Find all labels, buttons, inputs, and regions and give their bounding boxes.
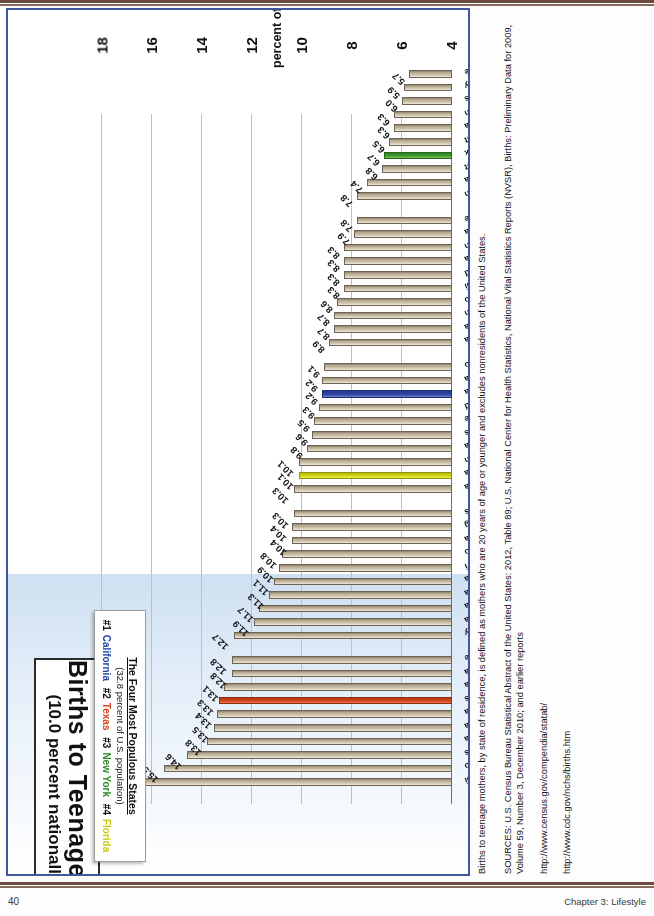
bar-florida: [300, 472, 453, 480]
axis-tick-6: 6: [394, 37, 411, 55]
bar-vermont: [390, 138, 453, 146]
category-label-maine: Maine: [463, 207, 470, 225]
bar-delaware: [315, 417, 453, 425]
chart-title-line2: (10.0 percent nationally in 2009): [44, 695, 63, 877]
definition-note: Births to teenage mothers, by state of r…: [476, 8, 489, 874]
legend-state-new-york: New York: [101, 752, 112, 797]
axis-tick-8: 8: [344, 37, 361, 55]
bar-kansas: [295, 510, 453, 518]
bar-iowa: [335, 325, 453, 333]
value-label-utah: 6.3: [375, 111, 392, 128]
bar-new-jersey: [405, 84, 453, 92]
bar-maryland: [345, 271, 453, 279]
bar-montana: [295, 485, 453, 493]
category-label-iowa: Iowa: [463, 317, 470, 333]
legend-state-california: California: [101, 635, 112, 681]
chapter-label: Chapter 3: Lifestyle: [564, 896, 646, 907]
category-label-tennessee: Tennessee: [463, 640, 470, 664]
chart-title-line1: Births to Teenage Mothers: [64, 660, 90, 876]
bar-georgia: [260, 605, 453, 613]
bar-wyoming: [292, 523, 452, 531]
bar-tennessee: [232, 656, 452, 664]
legend-rank-3: #3: [101, 737, 112, 748]
bar-south-carolina: [232, 670, 452, 678]
bar-rhode-island: [320, 404, 453, 412]
source-url-cdc[interactable]: http://www.cdc.gov/nchs/births.htm: [561, 8, 574, 874]
bar-idaho: [337, 298, 452, 306]
legend-items: #1California #2Texas #3New York #4Florid…: [101, 618, 112, 855]
bar-north-carolina: [270, 591, 453, 599]
bar-louisiana: [225, 683, 453, 691]
bar-oregon: [335, 312, 453, 320]
top-rule-accent: [0, 4, 654, 6]
bar-north-dakota: [367, 179, 452, 187]
bar-minnesota: [395, 124, 453, 132]
bar-kentucky: [235, 632, 453, 640]
sources-column: Births to teenage mothers, by state of r…: [476, 8, 646, 876]
chart-panel: 16.5Mississippi15.5New Mexico14.6Arkansa…: [6, 8, 470, 876]
bar-nebraska: [345, 257, 453, 265]
page-canvas: 16.5Mississippi15.5New Mexico14.6Arkansa…: [0, 0, 654, 916]
category-label-kansas: Kansas: [463, 498, 470, 518]
bar-michigan: [300, 458, 453, 466]
category-label-utah: Utah: [463, 103, 470, 119]
category-label-new-hampshire: New Hampshire: [463, 47, 470, 78]
bar-washington: [357, 192, 452, 200]
bar-arizona: [255, 618, 453, 626]
legend-state-texas: Texas: [101, 703, 112, 731]
axis-tick-4: 4: [444, 37, 461, 55]
axis-tick-16: 16: [144, 37, 161, 55]
bar-hawaii: [345, 285, 453, 293]
bar-illinois: [312, 431, 452, 439]
bottom-rule-accent: [0, 886, 654, 888]
bar-south-dakota: [322, 377, 452, 385]
bar-pennsylvania: [330, 339, 453, 347]
bar-alabama: [217, 710, 452, 718]
value-label-kentucky: 12.7: [210, 632, 231, 653]
bar-new-mexico: [165, 765, 453, 773]
axis-tick-14: 14: [194, 37, 211, 55]
page-number: 40: [8, 896, 19, 907]
bar-maine: [357, 217, 452, 225]
value-label-wisconsin: 8.3: [325, 244, 342, 261]
bar-mississippi: [140, 778, 453, 786]
bar-california: [322, 390, 452, 398]
bar-arkansas: [187, 751, 452, 759]
bar-massachusetts: [402, 97, 452, 105]
chart-title-box: Births to Teenage Mothers (10.0 percent …: [34, 658, 100, 876]
legend-rank-1: #1: [101, 620, 112, 631]
bar-new-york: [385, 152, 453, 160]
category-label-colorado: Colorado: [463, 349, 470, 371]
bar-virginia: [355, 230, 453, 238]
value-label-south-dakota: 9.2: [303, 377, 320, 394]
bar-oklahoma: [207, 738, 452, 746]
bar-connecticut: [382, 165, 452, 173]
value-label-colorado: 9.1: [305, 364, 322, 381]
bar-wisconsin: [345, 244, 453, 252]
bar-colorado: [325, 363, 453, 371]
axis-tick-18: 18: [94, 37, 111, 55]
legend-heading: The Four Most Populous States: [127, 657, 139, 815]
axis-tick-10: 10: [294, 37, 311, 55]
bar-utah: [395, 111, 453, 119]
legend-state-florida: Florida: [101, 819, 112, 852]
source-url-census[interactable]: http://www.census.gov/compendia/statab/: [538, 8, 551, 874]
bar-indiana: [275, 578, 453, 586]
axis-tick-12: 12: [244, 37, 261, 55]
legend-box: The Four Most Populous States (32.8 perc…: [94, 610, 146, 862]
legend-subheading: (32.8 percent of U.S. population): [115, 667, 126, 804]
bar-alaska: [307, 445, 452, 453]
bottom-rule: [0, 882, 654, 885]
legend-rank-2: #2: [101, 688, 112, 699]
bar-ohio: [282, 550, 452, 558]
value-label-oregon: 8.7: [315, 312, 332, 329]
top-rule: [0, 0, 654, 3]
sources-citation: SOURCES: U.S. Census Bureau Statistical …: [502, 8, 527, 874]
value-label-washington: 7.8: [338, 193, 355, 210]
bar-west-virginia: [215, 724, 453, 732]
chart-rotated-canvas: 16.5Mississippi15.5New Mexico14.6Arkansa…: [8, 10, 468, 874]
gridline-16: [151, 114, 152, 804]
bar-new-hampshire: [410, 70, 453, 78]
legend-rank-4: #4: [101, 804, 112, 815]
axis-title: percent of all births: [270, 8, 284, 69]
